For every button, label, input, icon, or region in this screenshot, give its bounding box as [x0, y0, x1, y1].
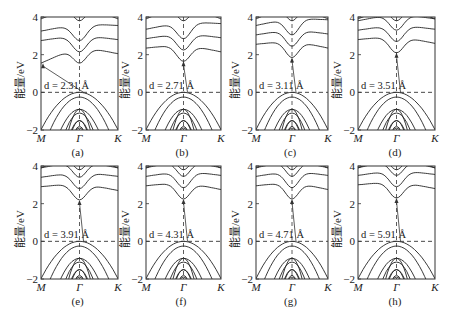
y-tick-label: 4 — [350, 160, 356, 172]
separation-label: d = 5.91 Å — [361, 229, 406, 240]
y-axis-label: 能量/eV — [328, 210, 344, 248]
x-tick-label: M — [352, 281, 363, 293]
x-tick-label: K — [430, 281, 439, 293]
panel-caption: (h) — [389, 295, 402, 307]
x-tick-label: Γ — [392, 281, 400, 293]
y-tick-label: 0 — [350, 235, 356, 247]
y-tick-label: 2 — [350, 198, 356, 210]
band-plot-h: 420−2MΓKd = 5.91 Å — [0, 0, 449, 322]
